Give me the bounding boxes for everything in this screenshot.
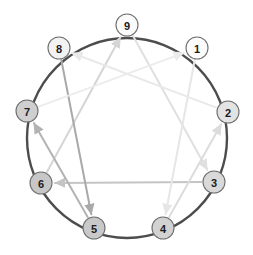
node-circle-9[interactable] xyxy=(116,14,138,36)
hexad-group xyxy=(34,53,221,217)
enneagram-node-1[interactable]: 1 xyxy=(186,37,208,59)
enneagram-node-3[interactable]: 3 xyxy=(203,171,225,193)
node-circle-6[interactable] xyxy=(30,172,52,194)
enneagram-node-9[interactable]: 9 xyxy=(116,14,138,36)
enneagram-node-6[interactable]: 6 xyxy=(30,172,52,194)
enneagram-node-8[interactable]: 8 xyxy=(48,37,70,59)
node-circle-7[interactable] xyxy=(16,100,38,122)
node-circle-2[interactable] xyxy=(217,101,239,123)
enneagram-node-7[interactable]: 7 xyxy=(16,100,38,122)
node-circle-5[interactable] xyxy=(83,217,105,239)
enneagram-node-4[interactable]: 4 xyxy=(152,217,174,239)
node-circle-8[interactable] xyxy=(48,37,70,59)
node-circle-1[interactable] xyxy=(186,37,208,59)
arrow-7-to-1 xyxy=(39,53,184,107)
arrow-3-to-6 xyxy=(55,182,202,183)
outer-ring-circle xyxy=(27,38,227,238)
enneagram-canvas: 912345678 xyxy=(0,0,253,255)
enneagram-node-5[interactable]: 5 xyxy=(83,217,105,239)
arrow-5-to-7 xyxy=(34,123,88,217)
enneagram-node-2[interactable]: 2 xyxy=(217,101,239,123)
node-circle-3[interactable] xyxy=(203,171,225,193)
enneagram-diagram: 912345678 xyxy=(0,0,253,255)
nodes-group: 912345678 xyxy=(16,14,239,239)
node-circle-4[interactable] xyxy=(152,217,174,239)
